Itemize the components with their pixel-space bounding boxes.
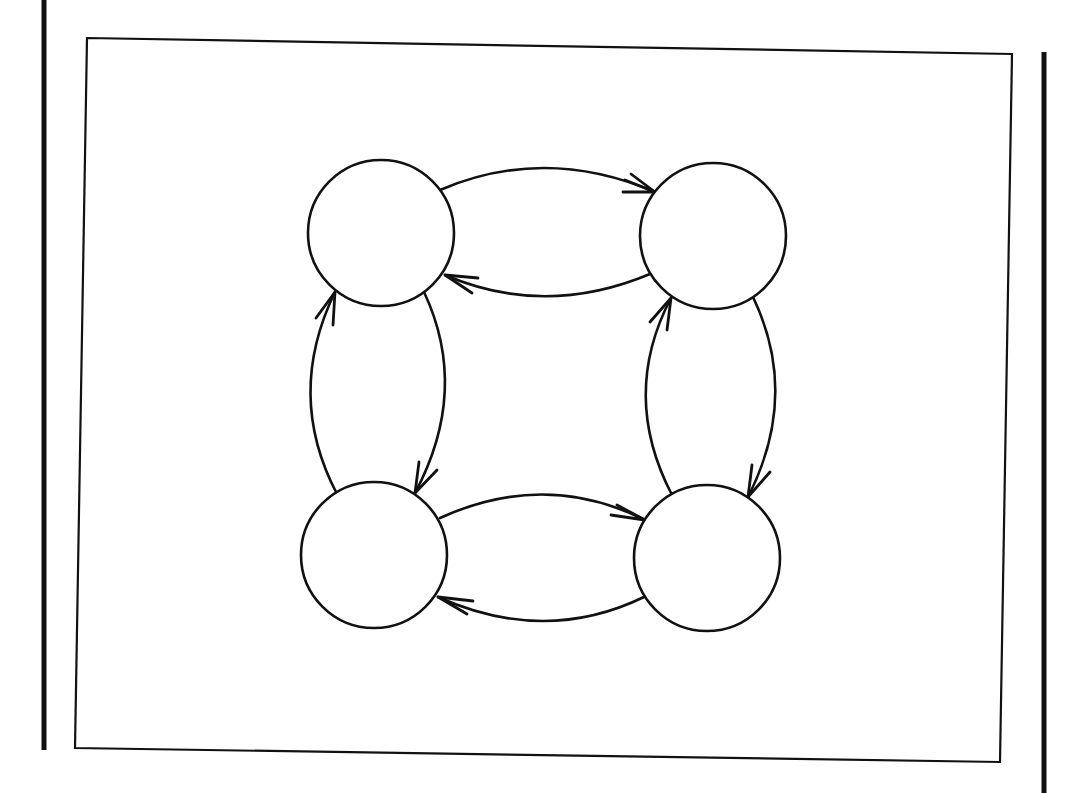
node-bottom-left xyxy=(301,482,447,628)
node-top-left xyxy=(308,160,454,306)
state-circle xyxy=(301,482,447,628)
node-top-right xyxy=(640,163,786,309)
state-circle xyxy=(308,160,454,306)
background xyxy=(0,0,1076,793)
state-circle xyxy=(640,163,786,309)
node-bottom-right xyxy=(634,485,780,631)
state-circle xyxy=(634,485,780,631)
state-diagram xyxy=(0,0,1076,793)
